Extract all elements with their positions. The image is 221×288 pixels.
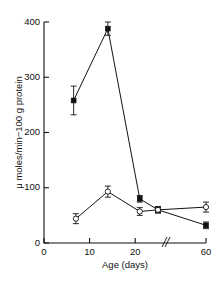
- x-axis-tick-label: 0: [41, 246, 46, 257]
- data-point-open-circle: [137, 209, 142, 214]
- y-axis-tick-label: 0: [35, 237, 40, 248]
- y-axis-title: μ moles/min−100 g protein: [13, 76, 24, 188]
- chart-axes: [44, 22, 206, 243]
- figure-panel: 01002003004000102060Age (days)μ moles/mi…: [0, 0, 221, 288]
- x-axis-title: Age (days): [102, 259, 148, 270]
- y-axis-tick-label: 400: [24, 16, 40, 27]
- y-axis-tick-label: 100: [24, 181, 40, 192]
- data-point-open-circle: [155, 207, 160, 212]
- data-point-open-circle: [105, 189, 110, 194]
- data-point-open-circle: [203, 204, 208, 209]
- x-axis-tick-label: 10: [84, 246, 95, 257]
- line-chart: 01002003004000102060Age (days)μ moles/mi…: [0, 0, 221, 288]
- data-point-filled-square: [204, 223, 209, 228]
- data-point-filled-square: [105, 26, 110, 31]
- y-axis-tick-label: 300: [24, 71, 40, 82]
- x-axis-tick-label: 20: [130, 246, 141, 257]
- x-axis-tick-label: 60: [201, 246, 212, 257]
- data-point-filled-square: [137, 196, 142, 201]
- data-point-filled-square: [71, 98, 76, 103]
- y-axis-tick-label: 200: [24, 126, 40, 137]
- data-point-open-circle: [73, 216, 78, 221]
